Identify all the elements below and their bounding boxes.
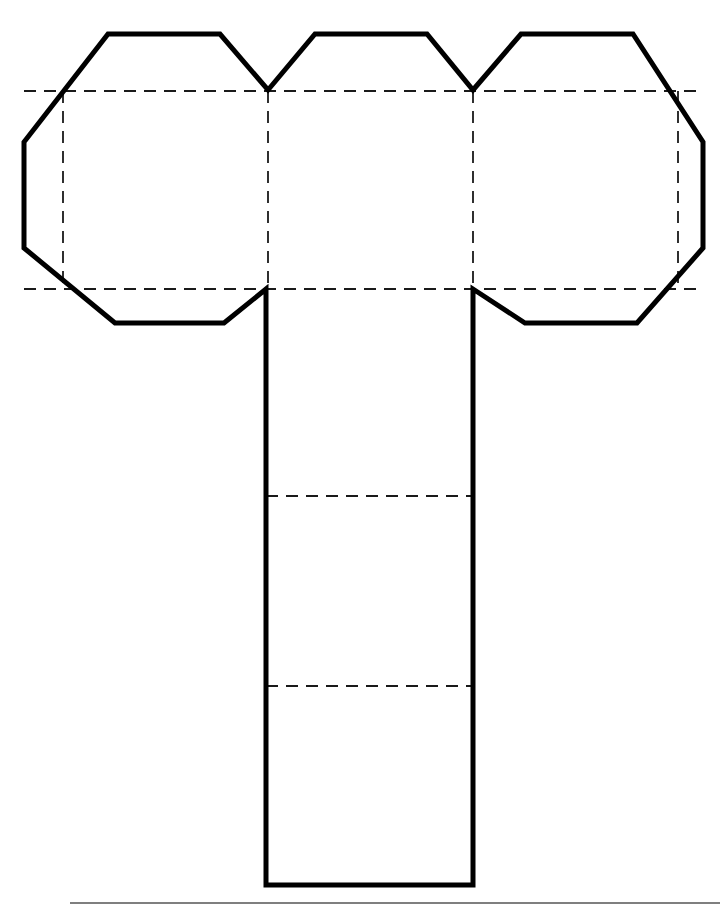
page-canvas [0,0,726,908]
net-diagram [0,0,726,908]
